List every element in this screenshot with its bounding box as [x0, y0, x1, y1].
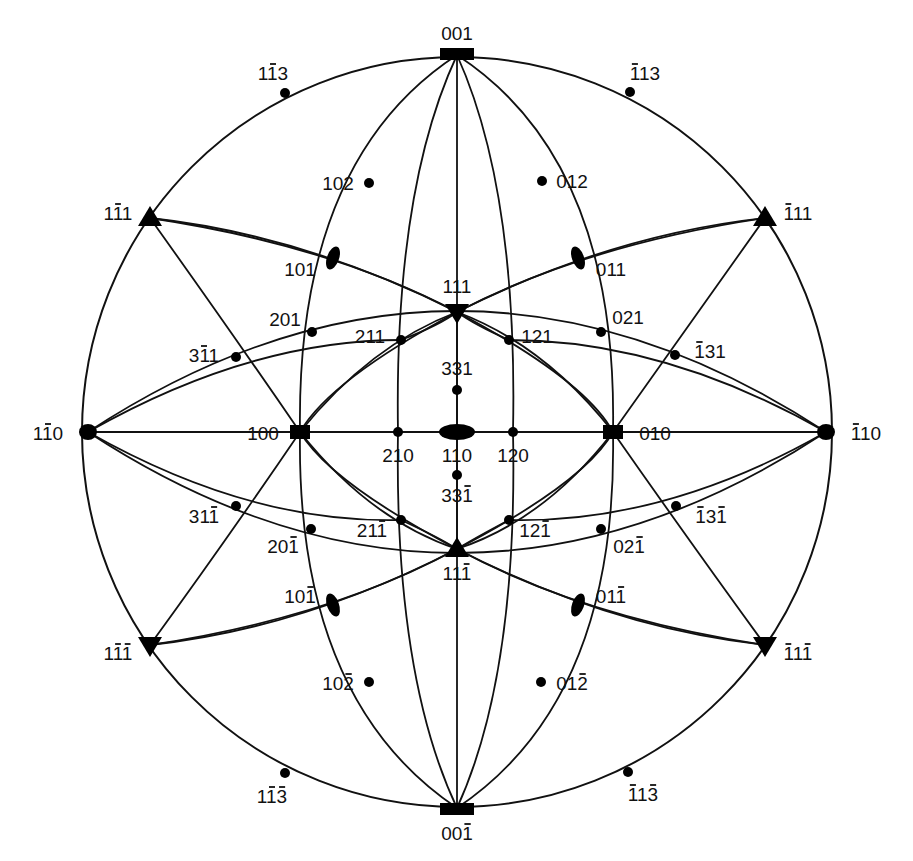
pole-label-p110: 110 [442, 445, 472, 466]
pole-marker-p20m1 [306, 524, 316, 534]
zone-line-1-10-111 [88, 312, 457, 432]
pole-marker-p021 [596, 327, 606, 337]
pole-marker-p31m1 [231, 501, 241, 511]
pole-marker-p00m1 [440, 803, 474, 815]
pole-marker-p211 [396, 335, 406, 345]
pole-marker-p21m1 [396, 515, 406, 525]
pole-marker-p02m1 [596, 524, 606, 534]
pole-marker-pm11m1 [753, 637, 777, 657]
pole-label-p111: 111 [443, 276, 472, 297]
pole-marker-p1m13 [280, 88, 290, 98]
pole-label-p1m1m3: 113 [257, 786, 287, 807]
pole-marker-p100 [290, 425, 310, 439]
pole-label-p10m1: 101 [284, 586, 316, 607]
pole-label-p00m1: 001 [441, 823, 473, 844]
pole-marker-p3m11 [231, 352, 241, 362]
stereographic-projection: 0010011101101101000101111111111111111111… [0, 0, 913, 861]
pole-label-p11m1: 111 [443, 563, 472, 584]
pole-label-p01m1: 011 [596, 586, 626, 607]
pole-marker-p33m1 [452, 470, 462, 480]
pole-label-p210: 210 [382, 445, 414, 466]
pole-label-p1m13: 113 [258, 63, 288, 84]
pole-label-p10m2: 102 [322, 673, 354, 694]
pole-label-p101: 101 [284, 259, 316, 280]
pole-marker-pm13m1 [671, 501, 681, 511]
pole-label-p211: 211 [355, 326, 385, 347]
pole-label-p001: 001 [441, 23, 473, 44]
pole-label-p01m2: 012 [556, 673, 588, 694]
pole-label-p1m1m1: 111 [104, 643, 133, 664]
pole-marker-p331 [452, 385, 462, 395]
pole-label-pm131: 131 [694, 341, 726, 362]
pole-marker-p102 [364, 178, 374, 188]
pole-marker-pm113 [625, 87, 635, 97]
pole-marker-p121 [504, 335, 514, 345]
pole-label-pm113: 113 [630, 63, 660, 84]
zone-line-m111-100 [300, 218, 765, 432]
pole-label-p010: 010 [639, 423, 671, 444]
pole-marker-p01m2 [536, 677, 546, 687]
pole-label-p20m1: 201 [267, 536, 299, 557]
pole-label-p201: 201 [269, 309, 301, 330]
pole-label-p121: 121 [521, 326, 553, 347]
pole-label-p21m1: 211 [357, 520, 387, 541]
pole-label-pm11m1: 111 [784, 643, 813, 664]
pole-label-pm111: 111 [784, 203, 813, 224]
pole-marker-p201 [307, 327, 317, 337]
pole-marker-p120 [508, 427, 518, 437]
pole-label-p120: 120 [497, 445, 529, 466]
pole-marker-pm131 [670, 350, 680, 360]
pole-marker-p1m1m3 [280, 768, 290, 778]
pole-label-pm110: 110 [851, 423, 881, 444]
pole-marker-p012 [537, 176, 547, 186]
pole-label-p31m1: 311 [189, 506, 219, 527]
pole-marker-p10m2 [364, 677, 374, 687]
pole-label-p3m11: 311 [189, 345, 219, 366]
pole-marker-p001 [440, 48, 474, 60]
pole-label-p012: 012 [556, 171, 588, 192]
zone-line-1-11-010 [150, 218, 613, 432]
pole-marker-pm110 [817, 424, 835, 440]
pole-label-pm13m1: 131 [695, 506, 727, 527]
pole-label-p331: 331 [441, 358, 473, 379]
pole-label-p12m1: 121 [519, 520, 551, 541]
pole-label-p100: 100 [247, 423, 279, 444]
projection-canvas: 0010011101101101000101111111111111111111… [0, 0, 913, 861]
pole-marker-p111 [445, 304, 469, 324]
pole-marker-pm111 [753, 206, 777, 226]
pole-marker-p1m1m1 [138, 637, 162, 657]
pole-marker-p1m11 [138, 206, 162, 226]
pole-label-p011: 011 [596, 259, 626, 280]
pole-marker-p210 [393, 427, 403, 437]
pole-marker-pm11m3 [623, 767, 633, 777]
pole-marker-p010 [603, 425, 623, 439]
pole-label-p33m1: 331 [441, 485, 473, 506]
pole-label-pm11m3: 113 [628, 784, 658, 805]
pole-label-p02m1: 021 [613, 536, 645, 557]
pole-marker-p12m1 [504, 515, 514, 525]
pole-label-p021: 021 [612, 307, 644, 328]
pole-label-p1m10: 110 [33, 423, 63, 444]
pole-marker-p110 [439, 424, 475, 440]
pole-label-p1m11: 111 [104, 203, 133, 224]
pole-label-p102: 102 [322, 173, 354, 194]
pole-marker-p1m10 [79, 424, 97, 440]
